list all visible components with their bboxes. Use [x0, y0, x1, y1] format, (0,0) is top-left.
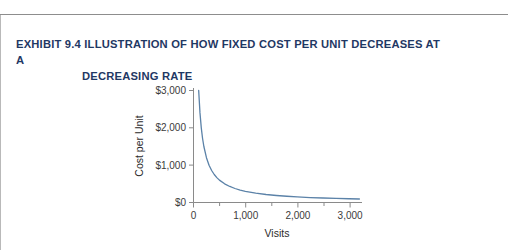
y-tick-label-3000: $3,000	[155, 85, 186, 96]
x-axis-tick-labels: 0 1,000 2,000 3,000	[191, 210, 363, 221]
exhibit-figure: EXHIBIT 9.4 ILLUSTRATION OF HOW FIXED CO…	[0, 0, 508, 250]
y-axis-title: Cost per Unit	[133, 115, 145, 176]
x-axis-title: Visits	[265, 227, 290, 239]
page-rule-top	[0, 14, 508, 15]
x-tick-label-1000: 1,000	[233, 210, 258, 221]
x-tick-label-0: 0	[191, 210, 197, 221]
y-tick-label-2000: $2,000	[155, 122, 186, 133]
exhibit-title-line-1: EXHIBIT 9.4 ILLUSTRATION OF HOW FIXED CO…	[16, 36, 446, 68]
x-axis-minor-ticks	[220, 203, 324, 207]
x-tick-label-2000: 2,000	[285, 210, 310, 221]
y-tick-label-1000: $1,000	[155, 160, 186, 171]
cost-per-unit-curve-chart: $3,000 $2,000 $1,000 $0 0 1,000	[0, 78, 508, 248]
y-axis-ticks	[189, 91, 194, 203]
y-axis-tick-labels: $3,000 $2,000 $1,000 $0	[155, 85, 186, 208]
y-tick-label-0: $0	[175, 197, 187, 208]
exhibit-title: EXHIBIT 9.4 ILLUSTRATION OF HOW FIXED CO…	[16, 36, 446, 84]
fixed-cost-per-unit-curve	[199, 91, 360, 199]
chart-plot-area: $3,000 $2,000 $1,000 $0 0 1,000	[0, 78, 508, 248]
x-tick-label-3000: 3,000	[338, 210, 363, 221]
